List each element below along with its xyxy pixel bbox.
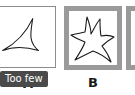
panel-c-inner [131, 11, 135, 65]
too-few-badge[interactable]: Too few [0, 71, 48, 87]
figure-canvas: A B Too few [0, 0, 135, 95]
panel-b-label: B [79, 76, 107, 89]
panel-c-cropped[interactable] [126, 6, 135, 70]
panel-b-inner [69, 11, 117, 65]
concave-triangle-shape [0, 7, 55, 67]
panel-b[interactable] [64, 6, 122, 70]
panel-a[interactable] [0, 6, 56, 68]
concave-five-point-star-shape [69, 11, 117, 65]
